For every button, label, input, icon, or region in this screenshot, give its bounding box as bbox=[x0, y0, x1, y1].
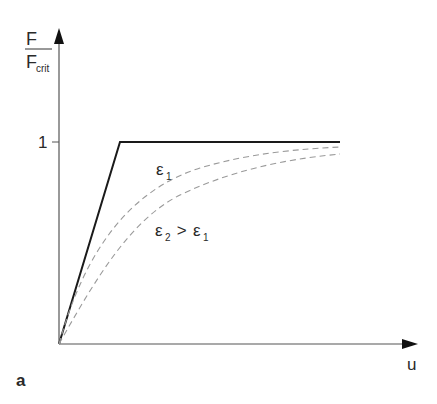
x-axis-label: u bbox=[407, 355, 416, 374]
epsilon1-curve bbox=[59, 147, 340, 344]
x-axis bbox=[59, 339, 418, 349]
svg-text:ε: ε bbox=[193, 221, 201, 240]
svg-text:2: 2 bbox=[165, 232, 171, 243]
load-displacement-diagram: F F crit 1 u ε 1 ε 2 > ε 1 a bbox=[0, 0, 437, 404]
x-axis-arrow-icon bbox=[402, 339, 418, 349]
y-axis-arrow-icon bbox=[54, 28, 64, 44]
epsilon2-curve bbox=[59, 154, 340, 344]
svg-text:>: > bbox=[172, 221, 191, 240]
panel-label: a bbox=[16, 371, 26, 390]
y-label-numerator: F bbox=[26, 29, 37, 49]
y-tick-label: 1 bbox=[38, 133, 47, 152]
svg-text:ε: ε bbox=[156, 160, 164, 179]
svg-text:1: 1 bbox=[203, 232, 209, 243]
y-axis-label: F F crit bbox=[25, 29, 52, 74]
epsilon2-label: ε 2 > ε 1 bbox=[155, 221, 209, 243]
epsilon1-label: ε 1 bbox=[156, 160, 172, 182]
ideal-curve bbox=[59, 142, 340, 344]
svg-text:ε: ε bbox=[155, 221, 163, 240]
svg-text:1: 1 bbox=[166, 171, 172, 182]
y-axis bbox=[52, 28, 64, 344]
y-label-denominator-sub: crit bbox=[36, 63, 50, 74]
